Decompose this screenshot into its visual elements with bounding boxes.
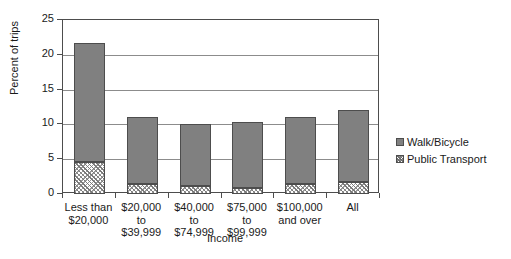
bar-stack [232,20,263,194]
bar-segment-walk-bicycle [285,117,316,183]
y-tick-label: 25 [24,13,54,24]
bar-segment-public-transport [232,188,263,194]
bar-stack [338,20,369,194]
bar-segment-public-transport [127,184,158,194]
legend-swatch-icon-walk-bicycle [396,138,404,146]
y-tick-label: 20 [24,48,54,59]
bar-segment-walk-bicycle [180,124,211,187]
chart-legend: Walk/Bicycle Public Transport [396,134,511,168]
y-tick-label: 0 [24,187,54,198]
bar-segment-walk-bicycle [232,122,263,187]
bar-stack [285,20,316,194]
legend-label-walk-bicycle: Walk/Bicycle [407,136,469,148]
gridline [63,159,378,160]
bar-segment-walk-bicycle [74,43,105,162]
bar-segment-public-transport [74,162,105,194]
x-tick-mark [115,193,116,198]
stacked-bar-chart: Percent of trips 0510152025 Less than $2… [0,0,511,259]
bar-stack [74,20,105,194]
x-tick-mark [379,193,380,198]
x-tick-mark [326,193,327,198]
bar-segment-walk-bicycle [338,110,369,182]
x-tick-mark [62,193,63,198]
plot-area [62,19,379,193]
legend-swatch-icon-public-transport [396,155,404,163]
x-axis-title: Income [175,232,275,244]
bar-stack [127,20,158,194]
x-tick-label: All [313,201,393,214]
y-tick-label: 5 [24,152,54,163]
legend-item-walk-bicycle: Walk/Bicycle [396,134,511,150]
y-tick-label: 10 [24,117,54,128]
bar-segment-public-transport [338,182,369,194]
gridline [63,90,378,91]
legend-item-public-transport: Public Transport [396,151,511,167]
gridline [63,55,378,56]
gridline [63,124,378,125]
y-axis-title: Percent of trips [8,0,20,118]
legend-label-public-transport: Public Transport [407,153,486,165]
bar-segment-public-transport [285,184,316,194]
y-tick-label: 15 [24,83,54,94]
bar-stack [180,20,211,194]
bar-segment-walk-bicycle [127,117,158,185]
x-tick-mark [273,193,274,198]
bar-segment-public-transport [180,186,211,194]
x-tick-mark [168,193,169,198]
x-tick-mark [221,193,222,198]
